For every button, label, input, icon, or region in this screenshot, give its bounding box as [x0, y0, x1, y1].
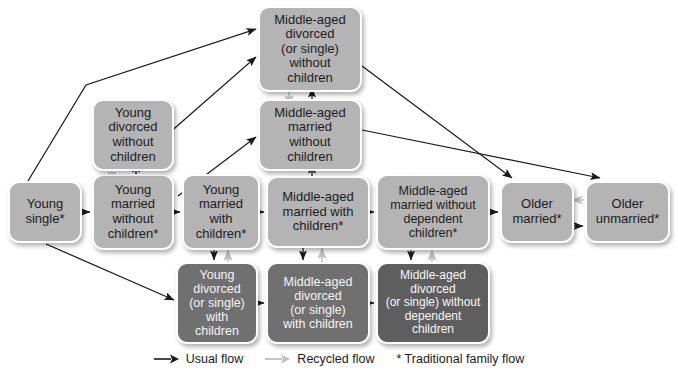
node-young-single: Young single*: [8, 181, 82, 243]
node-midaged-married-no-kids: Middle-aged married without children: [258, 99, 362, 171]
legend-label: * Traditional family flow: [396, 352, 524, 366]
node-label: Young single*: [25, 197, 64, 226]
edge-young-divorced-to-midaged-divorced: [168, 57, 256, 134]
node-label: Middle-aged divorced (or single) with ch…: [283, 275, 352, 331]
node-label: Young married with children*: [196, 183, 247, 241]
legend-item-usual-flow: Usual flow: [154, 352, 244, 366]
arrow-dark-icon: [154, 353, 180, 365]
edge-young-single-to-young-divorced-kids: [46, 244, 174, 300]
node-midaged-divorced-kids: Middle-aged divorced (or single) with ch…: [266, 262, 370, 344]
node-label: Young married without children*: [108, 183, 159, 241]
node-midaged-divorced-no-dep: Middle-aged divorced (or single) without…: [376, 262, 490, 344]
node-young-married-no-kids: Young married without children*: [92, 174, 174, 250]
node-label: Middle-aged divorced (or single) without…: [274, 13, 346, 86]
node-label: Middle-aged married with children*: [282, 190, 354, 234]
node-older-married: Older married*: [500, 181, 574, 243]
arrow-light-icon: [265, 353, 291, 365]
node-label: Young divorced (or single) with children: [189, 268, 245, 338]
node-label: Young divorced without children: [108, 106, 157, 164]
legend: Usual flowRecycled flow* Traditional fam…: [0, 352, 678, 366]
node-young-divorced-no-kids: Young divorced without children: [92, 99, 174, 171]
legend-label: Usual flow: [186, 352, 244, 366]
family-life-cycle-diagram: Young single*Young married without child…: [0, 0, 678, 384]
node-midaged-married-kids: Middle-aged married with children*: [266, 176, 370, 248]
node-label: Middle-aged married without dependent ch…: [390, 184, 475, 240]
node-young-divorced-kids: Young divorced (or single) with children: [176, 262, 258, 344]
node-midaged-married-no-dep: Middle-aged married without dependent ch…: [376, 174, 490, 250]
edge-midaged-divorced-to-older-married: [362, 66, 512, 178]
node-label: Middle-aged divorced (or single) without…: [386, 269, 481, 336]
node-older-unmarried: Older unmarried*: [585, 181, 670, 243]
node-midaged-divorced-no-kids: Middle-aged divorced (or single) without…: [258, 6, 362, 92]
legend-item-recycled-flow: Recycled flow: [265, 352, 374, 366]
node-label: Older unmarried*: [596, 197, 660, 226]
legend-item-traditional-family-flow: * Traditional family flow: [396, 352, 524, 366]
edge-midaged-married-nokids-to-older-unmarried: [362, 130, 600, 178]
node-young-married-kids: Young married with children*: [182, 174, 260, 250]
node-label: Middle-aged married without children: [274, 106, 346, 164]
node-label: Older married*: [512, 197, 561, 226]
legend-label: Recycled flow: [297, 352, 374, 366]
